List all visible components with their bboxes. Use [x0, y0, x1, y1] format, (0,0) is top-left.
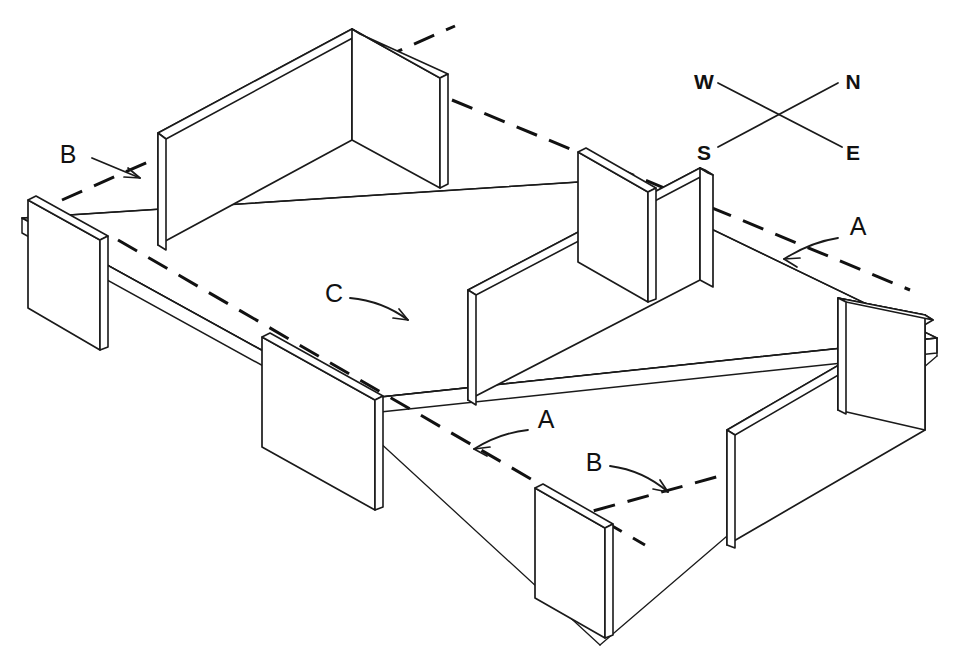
callout-b-lower-right-label: B — [586, 448, 603, 476]
wall-panel-east-long-endcap — [727, 430, 735, 548]
isometric-drawing: B A C A B W N S E — [0, 0, 958, 667]
wall-panel-interior-long-endcap — [468, 290, 476, 405]
wall-panel-northeast-stub-endcap — [648, 188, 656, 302]
callout-a-lower-leader — [474, 430, 528, 449]
callout-a-right-label: A — [850, 212, 867, 240]
callout-a-right: A — [784, 212, 867, 267]
isometric-drawing-canvas: B A C A B W N S E — [0, 0, 958, 667]
callout-b-lower-right-leader — [610, 466, 668, 492]
callout-c-center-label: C — [325, 279, 343, 307]
compass-label-west: W — [694, 70, 714, 93]
compass-label-east: E — [846, 141, 860, 164]
wall-panel-interior-return-face — [700, 168, 713, 287]
wall-panel-north-return — [352, 29, 448, 188]
callout-a-lower: A — [474, 405, 555, 456]
wall-panel-north-return-endcap — [440, 74, 448, 188]
wall-panel-southwest-front-endcap — [375, 396, 383, 510]
callout-b-upper-left: B — [60, 140, 140, 178]
wall-panel-south-center-endcap — [605, 524, 613, 638]
callout-b-lower-right: B — [586, 448, 668, 492]
compass-label-south: S — [697, 141, 711, 164]
wall-panel-east-return-endcap — [838, 298, 846, 414]
wall-panel-west-end-endcap — [100, 236, 108, 350]
wall-panel-northwest-endcap — [158, 133, 166, 250]
wall-panel-interior-return — [700, 168, 713, 287]
callout-a-lower-label: A — [538, 405, 555, 433]
compass-label-north: N — [845, 70, 860, 93]
callout-b-upper-left-label: B — [60, 140, 77, 168]
compass-rose: W N S E — [694, 70, 861, 164]
wall-panel-east-return-face — [838, 298, 925, 430]
